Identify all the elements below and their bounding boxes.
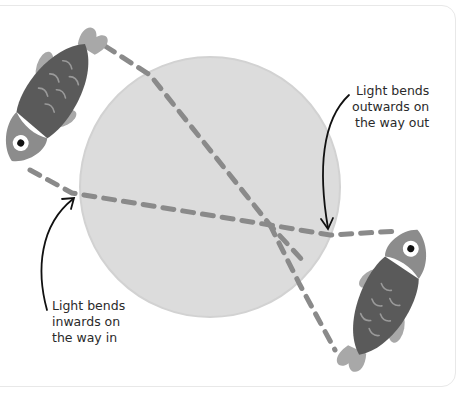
fish-bottom-right [320,215,448,385]
water-droplet-circle [80,57,340,317]
label-bends-inwards: Light bends inwards on the way in [52,298,125,346]
arrow-in [42,199,73,310]
label-bends-outwards: Light bends outwards on the way out [352,83,429,131]
